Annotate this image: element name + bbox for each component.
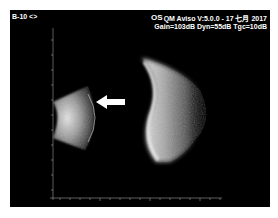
b-scan-image	[10, 10, 270, 207]
device-version-date: QM Aviso V:5.0.0 - 17 七月 2017	[164, 13, 267, 23]
probe-label: B-10 <>	[12, 13, 37, 20]
gain-settings: Gain=103dB Dyn=55dB Tgc=10dB	[154, 23, 267, 30]
anterior-echo	[53, 86, 95, 150]
horizontal-ruler	[50, 198, 222, 201]
vertical-ruler	[51, 28, 53, 200]
ultrasound-display: B-10 <> OS QM Aviso V:5.0.0 - 17 七月 2017…	[10, 10, 270, 207]
posterior-wall-echo	[142, 58, 206, 162]
arrow-annotation	[96, 95, 125, 109]
eye-label: OS	[151, 13, 163, 22]
ultrasound-image	[10, 10, 270, 207]
